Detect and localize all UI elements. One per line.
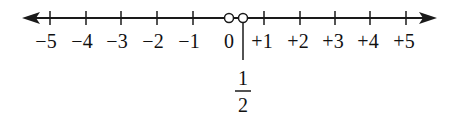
open-point-half bbox=[239, 14, 248, 23]
tick-label: −4 bbox=[71, 30, 92, 52]
tick-label: −3 bbox=[106, 30, 127, 52]
open-point-zero bbox=[225, 14, 234, 23]
tick-label: +2 bbox=[287, 30, 308, 52]
tick-label: 0 bbox=[224, 30, 234, 52]
tick-label: +5 bbox=[393, 30, 414, 52]
tick-label: −5 bbox=[35, 30, 56, 52]
fraction-denominator: 2 bbox=[238, 94, 248, 116]
tick-label: +4 bbox=[357, 30, 378, 52]
fraction-numerator: 1 bbox=[238, 67, 248, 89]
number-line-diagram: −5 −4 −3 −2 −1 0 +1 +2 +3 +4 +5 1 2 bbox=[0, 0, 455, 122]
tick-label: −2 bbox=[142, 30, 163, 52]
tick-label: −1 bbox=[178, 30, 199, 52]
tick-label: +1 bbox=[251, 30, 272, 52]
half-fraction-label: 1 2 bbox=[235, 67, 251, 116]
tick-label: +3 bbox=[322, 30, 343, 52]
